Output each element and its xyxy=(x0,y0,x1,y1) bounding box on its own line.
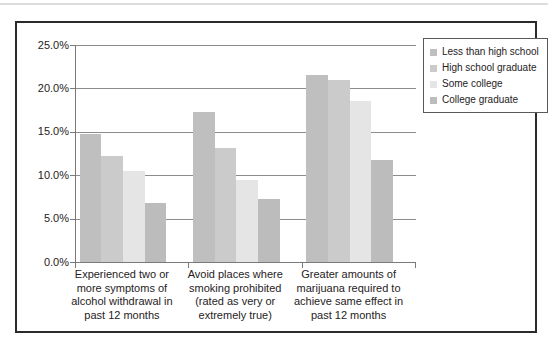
category-label-2: Avoid places where smoking prohibited (r… xyxy=(178,268,292,322)
legend-item-1: Less than high school xyxy=(430,44,544,60)
bar-4-category-1 xyxy=(145,203,167,262)
y-axis-tick xyxy=(70,132,75,133)
plot-area xyxy=(75,45,416,263)
bar-1-category-1 xyxy=(80,134,102,262)
legend-item-label: Some college xyxy=(442,78,503,90)
bar-2-category-2 xyxy=(215,148,237,262)
figure-canvas: 25.0%20.0%15.0%10.0%5.0%0.0% Experienced… xyxy=(0,0,548,343)
bar-1-category-2 xyxy=(193,112,215,262)
legend-item-label: College graduate xyxy=(442,94,518,106)
y-axis-tick-label: 15.0% xyxy=(23,125,69,138)
bar-2-category-3 xyxy=(328,80,350,262)
y-axis-tick-label: 5.0% xyxy=(23,212,69,225)
bar-2-category-1 xyxy=(101,156,123,262)
y-axis-tick xyxy=(70,219,75,220)
legend-item-4: College graduate xyxy=(430,92,544,108)
category-label-1: Experienced two or more symptoms of alco… xyxy=(63,268,181,322)
y-axis-tick xyxy=(70,88,75,89)
legend-item-3: Some college xyxy=(430,76,544,92)
y-axis-tick xyxy=(70,175,75,176)
y-axis-tick-label: 0.0% xyxy=(23,256,69,269)
x-axis-tick xyxy=(415,263,416,268)
page-artifact-line xyxy=(0,3,548,5)
y-axis-tick-label: 25.0% xyxy=(23,39,69,52)
legend-swatch-icon xyxy=(430,49,437,56)
gridline xyxy=(76,88,416,89)
legend-item-label: High school graduate xyxy=(442,62,537,74)
bar-3-category-3 xyxy=(350,101,372,262)
gridline xyxy=(76,45,416,46)
bar-3-category-1 xyxy=(123,171,145,262)
bar-3-category-2 xyxy=(236,180,258,262)
y-axis-tick xyxy=(70,45,75,46)
legend-item-label: Less than high school xyxy=(442,46,539,58)
y-axis-tick-label: 10.0% xyxy=(23,169,69,182)
bar-4-category-3 xyxy=(371,160,393,262)
bar-4-category-2 xyxy=(258,199,280,262)
legend-swatch-icon xyxy=(430,65,437,72)
y-axis-tick-label: 20.0% xyxy=(23,82,69,95)
legend-swatch-icon xyxy=(430,97,437,104)
chart-frame: 25.0%20.0%15.0%10.0%5.0%0.0% Experienced… xyxy=(15,21,537,333)
bar-1-category-3 xyxy=(306,75,328,262)
legend: Less than high schoolHigh school graduat… xyxy=(423,38,548,113)
category-label-3: Greater amounts of marijuana required to… xyxy=(288,268,410,322)
legend-swatch-icon xyxy=(430,81,437,88)
legend-item-2: High school graduate xyxy=(430,60,544,76)
